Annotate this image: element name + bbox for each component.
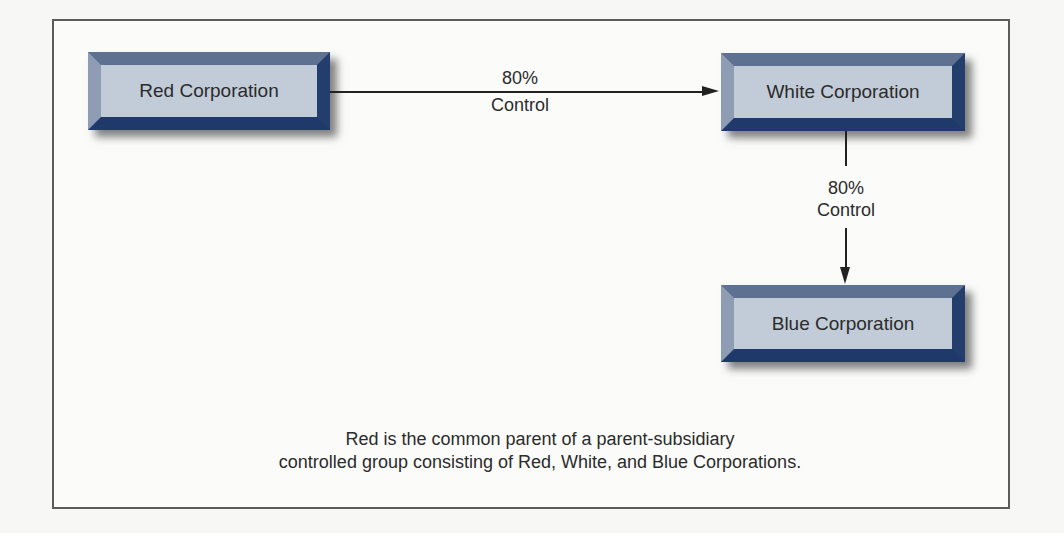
edge-red-to-white-label: Control <box>470 94 570 116</box>
node-label: Blue Corporation <box>772 313 915 335</box>
edge-red-to-white-percent: 80% <box>470 67 570 89</box>
caption-line-2: controlled group consisting of Red, Whit… <box>140 451 940 474</box>
node-label: White Corporation <box>766 81 919 103</box>
node-label: Red Corporation <box>139 80 278 102</box>
node-white-corporation: White Corporation <box>721 53 965 131</box>
edge-white-to-blue-line-bottom <box>845 228 847 270</box>
arrow-right-icon <box>702 86 719 96</box>
diagram-caption: Red is the common parent of a parent-sub… <box>140 428 940 474</box>
node-blue-corporation: Blue Corporation <box>721 285 965 362</box>
node-red-corporation: Red Corporation <box>88 52 330 130</box>
edge-white-to-blue-line-top <box>845 131 847 166</box>
edge-white-to-blue-label: Control <box>796 199 896 221</box>
arrow-down-icon <box>840 267 850 284</box>
edge-red-to-white-line <box>330 91 704 93</box>
edge-white-to-blue-percent: 80% <box>796 177 896 199</box>
caption-line-1: Red is the common parent of a parent-sub… <box>140 428 940 451</box>
edge-white-to-blue-text: 80% Control <box>796 177 896 221</box>
